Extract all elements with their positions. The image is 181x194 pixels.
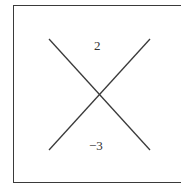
crossing-lines <box>0 0 181 194</box>
bottom-region-label: −3 <box>89 139 103 152</box>
top-region-label: 2 <box>94 39 101 52</box>
